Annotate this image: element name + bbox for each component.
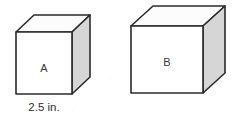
cube-a: A <box>16 15 90 94</box>
cubes-diagram-svg: A B 2.5 in. <box>0 0 241 126</box>
cube-a-label: A <box>40 62 48 74</box>
cube-b: B <box>131 6 225 93</box>
cube-b-label: B <box>163 56 170 68</box>
geometry-figure: A B 2.5 in. <box>0 0 241 126</box>
cube-a-dimension-label: 2.5 in. <box>28 101 59 113</box>
